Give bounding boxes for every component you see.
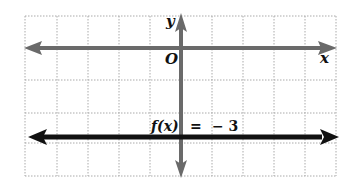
y-axis-label: y xyxy=(165,12,176,30)
x-axis-label: x xyxy=(319,49,330,67)
origin-label: O xyxy=(165,50,178,68)
function-value: − 3 xyxy=(212,118,238,134)
equals-sign: = xyxy=(190,118,202,134)
y-axis xyxy=(175,13,187,178)
coordinate-plane: y x O f(x) = − 3 xyxy=(0,0,360,191)
function-label: f(x) xyxy=(150,118,179,134)
